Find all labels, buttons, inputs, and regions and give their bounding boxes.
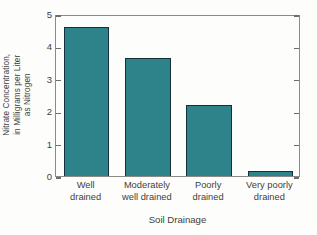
y-tick-label-2: 2 (38, 107, 52, 117)
x-tick-label-3-line-0: Very poorly (233, 180, 306, 192)
x-tick-label-3: Very poorlydrained (233, 180, 306, 203)
bar-1 (125, 58, 170, 176)
plot-area (55, 15, 300, 177)
y-tick-label-1: 1 (38, 140, 52, 150)
bar-0 (64, 27, 109, 176)
y-tick-mark-right-3 (294, 80, 299, 81)
y-tick-mark-left-0 (56, 177, 61, 178)
y-tick-mark-left-3 (56, 80, 61, 81)
x-axis-tick-labels: WelldrainedModeratelywell drainedPoorlyd… (55, 180, 300, 214)
bar-3 (248, 171, 293, 176)
y-tick-label-3: 3 (38, 75, 52, 85)
y-axis-title-line-3: as Nitrogen (23, 54, 34, 136)
y-tick-mark-left-5 (56, 15, 61, 16)
y-axis-title: Nitrate Concentration, in Milligrams per… (0, 0, 36, 190)
plot-inner (56, 16, 299, 176)
chart-figure: Nitrate Concentration, in Milligrams per… (0, 0, 317, 235)
y-tick-mark-left-4 (56, 48, 61, 49)
y-tick-mark-right-5 (294, 15, 299, 16)
y-tick-label-5: 5 (38, 10, 52, 20)
x-axis-title: Soil Drainage (55, 214, 300, 225)
y-tick-mark-right-0 (294, 177, 299, 178)
y-tick-mark-right-1 (294, 145, 299, 146)
y-tick-mark-left-1 (56, 145, 61, 146)
y-tick-label-4: 4 (38, 42, 52, 52)
x-tick-label-3-line-1: drained (233, 192, 306, 204)
y-axis-title-line-1: Nitrate Concentration, (2, 54, 13, 136)
bar-2 (186, 105, 231, 176)
y-tick-mark-left-2 (56, 113, 61, 114)
y-axis-title-line-2: in Milligrams per Liter (13, 54, 24, 136)
y-tick-mark-right-2 (294, 113, 299, 114)
y-tick-mark-right-4 (294, 48, 299, 49)
